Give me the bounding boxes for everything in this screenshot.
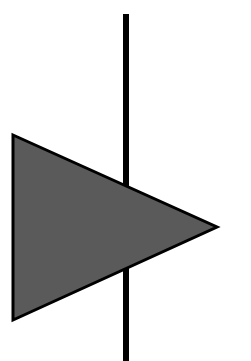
diagram-canvas <box>0 0 251 361</box>
triangle-arrow-icon <box>13 135 217 320</box>
